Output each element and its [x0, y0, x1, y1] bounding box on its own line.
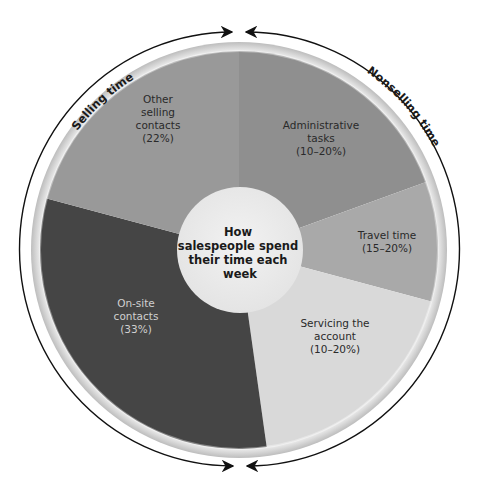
segment-label: Travel time(15–20%) — [357, 229, 416, 254]
segment-label: On-sitecontacts(33%) — [114, 297, 159, 335]
pie-chart: Administrativetasks(10–20%)Travel time(1… — [0, 0, 477, 503]
